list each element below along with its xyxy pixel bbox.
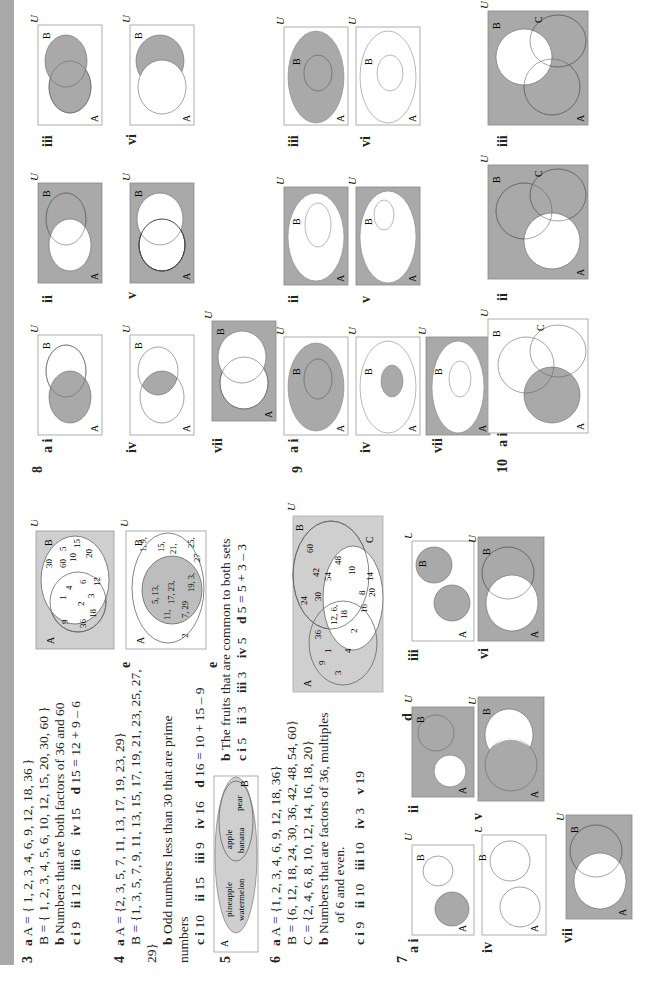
- svg-text:1, 9,: 1, 9,: [138, 537, 148, 552]
- svg-text:B: B: [291, 58, 302, 65]
- svg-text:U: U: [478, 1, 490, 9]
- q3-e-label: e: [118, 662, 134, 668]
- svg-text:U: U: [202, 310, 214, 319]
- q9-label-vi: vi: [358, 136, 374, 147]
- q7-label-iii: iii: [406, 649, 422, 661]
- svg-text:U: U: [274, 16, 286, 25]
- svg-text:B: B: [133, 190, 144, 197]
- q7-label-vii: vii: [560, 928, 576, 943]
- svg-text:A: A: [529, 790, 540, 798]
- q8-label-vi: vi: [124, 134, 140, 145]
- svg-text:10: 10: [68, 553, 78, 563]
- svg-text:U: U: [285, 502, 297, 511]
- svg-text:7, 29: 7, 29: [180, 601, 190, 618]
- svg-text:6: 6: [78, 579, 88, 584]
- q9-diagram-vi: ABU: [344, 9, 426, 127]
- q8-diagram-i: ABU: [26, 319, 106, 437]
- svg-text:C: C: [533, 16, 544, 23]
- q7-number: 7: [395, 956, 411, 963]
- q7-label-v: v: [470, 813, 486, 820]
- svg-text:60: 60: [305, 544, 315, 554]
- q7-diagram-vii: ABU: [554, 809, 638, 921]
- svg-text:2: 2: [180, 634, 190, 639]
- q8-label-vii: vii: [210, 438, 226, 453]
- svg-text:1: 1: [323, 649, 333, 654]
- q4-c-answers: c i 10 ii 15 iii 9 iv 16 d 16 = 10 + 15 …: [192, 669, 208, 963]
- q8-diagram-ii: ABU: [26, 167, 106, 285]
- svg-text:9: 9: [317, 660, 327, 665]
- svg-text:B: B: [417, 560, 428, 567]
- q3-set-a: A = { 1, 2, 3, 4, 6, 9, 12, 18, 36 }: [20, 758, 35, 936]
- svg-text:30: 30: [313, 592, 323, 602]
- svg-text:14: 14: [365, 572, 375, 582]
- q8-diagram-iv: ABU: [118, 319, 200, 437]
- svg-text:16: 16: [359, 604, 369, 614]
- svg-text:54: 54: [323, 572, 333, 582]
- svg-text:C: C: [364, 536, 375, 543]
- svg-text:19, 3,: 19, 3,: [186, 573, 196, 592]
- svg-text:U: U: [402, 694, 414, 703]
- q5-venn-diagram: A B pineapple watermelon apple banana pe…: [210, 773, 260, 953]
- svg-text:B: B: [415, 716, 426, 723]
- svg-text:A: A: [529, 630, 540, 638]
- svg-text:8: 8: [357, 590, 367, 595]
- svg-text:U: U: [120, 14, 132, 23]
- svg-text:B: B: [363, 368, 374, 375]
- svg-text:5, 13,: 5, 13,: [150, 585, 160, 604]
- svg-text:B: B: [491, 176, 502, 183]
- svg-text:B: B: [294, 524, 305, 531]
- svg-text:U: U: [118, 520, 130, 527]
- svg-text:B: B: [41, 32, 52, 39]
- svg-text:36: 36: [78, 619, 88, 629]
- svg-text:3: 3: [86, 593, 96, 598]
- q4-b-answer: Odd numbers less than 30 that are prime: [160, 716, 175, 935]
- q6-set-a: A = {1, 2, 3, 4, 6, 9, 12, 18, 36}: [268, 765, 283, 936]
- svg-text:A: A: [89, 114, 100, 122]
- svg-text:B: B: [363, 58, 374, 65]
- svg-text:U: U: [28, 324, 40, 333]
- q9-label-v: v: [358, 296, 374, 303]
- svg-text:27: 27: [192, 554, 202, 563]
- svg-text:5: 5: [58, 546, 68, 551]
- svg-text:A: A: [457, 924, 468, 932]
- q9-label-iv: iv: [358, 442, 374, 453]
- q3-block: 3 a A = { 1, 2, 3, 4, 6, 9, 12, 18, 36 }…: [20, 701, 84, 963]
- q9-diagram-i: ABU: [272, 319, 354, 437]
- q10-number: 10: [495, 459, 511, 473]
- svg-text:2: 2: [349, 629, 359, 634]
- svg-text:A: A: [575, 422, 586, 430]
- q6-venn-diagram: U A B C 9 1 3 36 12, 6, 18 4 2 24 30 42 …: [285, 493, 385, 693]
- svg-text:B: B: [133, 342, 144, 349]
- svg-text:U: U: [28, 520, 40, 527]
- svg-text:60: 60: [58, 559, 68, 569]
- svg-text:B: B: [41, 190, 52, 197]
- q9-label-ai: a i: [286, 439, 302, 453]
- svg-text:B: B: [491, 22, 502, 29]
- svg-text:B: B: [481, 708, 492, 715]
- q5-answers: b The fruits that are common to both set…: [218, 539, 250, 761]
- q3-b-answer: Numbers that are both factors of 36 and …: [52, 702, 67, 934]
- q8-diagram-vi: ABU: [118, 9, 200, 127]
- page-edge-stripe: [0, 0, 14, 965]
- q3-c-answers: c i 9 ii 12 iii 6 iv 15 d 15 = 12 + 9 – …: [68, 701, 84, 963]
- svg-text:U: U: [478, 309, 490, 317]
- svg-text:17, 23,: 17, 23,: [166, 581, 176, 604]
- svg-text:U: U: [554, 812, 566, 821]
- q3-number: 3: [20, 956, 35, 963]
- svg-text:21,: 21,: [168, 543, 178, 554]
- svg-text:banana: banana: [236, 828, 246, 853]
- q7-label-ii: ii: [406, 805, 422, 813]
- q7-label-vi: vi: [476, 648, 492, 659]
- q10-label-iii: iii: [495, 135, 511, 147]
- q9-label-ii: ii: [286, 295, 302, 303]
- svg-text:U: U: [274, 326, 286, 335]
- svg-text:U: U: [346, 16, 358, 25]
- q7-diagram-vi: ABU: [466, 531, 550, 643]
- svg-text:U: U: [28, 172, 40, 181]
- svg-text:U: U: [28, 14, 40, 23]
- svg-text:36: 36: [313, 630, 323, 640]
- q9-label-vii: vii: [430, 438, 446, 453]
- svg-text:U: U: [416, 326, 428, 335]
- q7-label-iv: iv: [480, 942, 496, 953]
- svg-text:pineapple: pineapple: [224, 882, 234, 917]
